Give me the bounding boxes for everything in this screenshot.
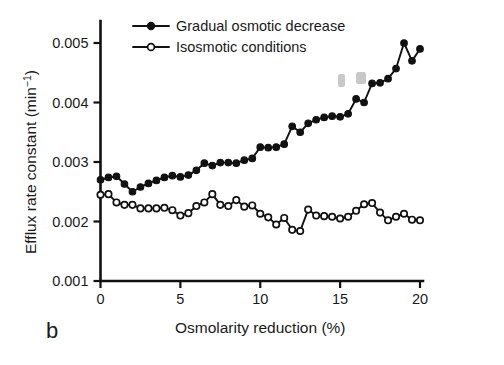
y-tick-label-4: 0.005 bbox=[52, 35, 88, 51]
data-point-1-28 bbox=[321, 213, 327, 219]
data-point-1-33 bbox=[361, 201, 367, 207]
x-tick-label-3: 15 bbox=[332, 291, 348, 307]
data-point-1-14 bbox=[209, 191, 215, 197]
data-point-0-8 bbox=[161, 174, 168, 181]
data-point-1-24 bbox=[289, 227, 295, 233]
data-point-1-12 bbox=[193, 203, 199, 209]
data-point-0-40 bbox=[417, 46, 424, 53]
data-point-1-8 bbox=[161, 205, 167, 211]
data-point-1-38 bbox=[401, 211, 407, 217]
chart-canvas: 0.0010.0020.0030.0040.00505101520 Gradua… bbox=[0, 0, 504, 365]
y-axis-title: Efflux rate constant (min−1) bbox=[21, 70, 39, 254]
data-point-0-2 bbox=[113, 173, 120, 180]
data-point-0-35 bbox=[377, 80, 384, 87]
data-point-0-20 bbox=[257, 144, 264, 151]
y-axis-title-main: Efflux rate constant (min bbox=[22, 87, 39, 254]
x-axis-title: Osmolarity reduction (%) bbox=[175, 319, 346, 336]
data-point-0-26 bbox=[305, 120, 312, 127]
y-axis-title-exponent: −1 bbox=[21, 75, 33, 87]
data-point-1-15 bbox=[217, 202, 223, 208]
data-point-0-37 bbox=[393, 65, 400, 72]
panel-label: b bbox=[46, 318, 58, 343]
figure-panel-b: 0.0010.0020.0030.0040.00505101520 Gradua… bbox=[0, 0, 504, 365]
legend-label-1: Isosmotic conditions bbox=[176, 39, 307, 55]
data-point-0-0 bbox=[97, 177, 104, 184]
data-point-1-27 bbox=[313, 212, 319, 218]
data-point-1-17 bbox=[233, 197, 239, 203]
data-point-0-7 bbox=[153, 177, 160, 184]
data-point-1-10 bbox=[177, 212, 183, 218]
data-point-1-34 bbox=[369, 200, 375, 206]
data-point-0-23 bbox=[281, 141, 288, 148]
data-point-1-23 bbox=[281, 215, 287, 221]
data-point-1-32 bbox=[353, 208, 359, 214]
series-line-0 bbox=[101, 43, 421, 192]
data-point-1-16 bbox=[225, 203, 231, 209]
y-axis-title-close: ) bbox=[22, 70, 39, 75]
data-point-0-15 bbox=[217, 159, 224, 166]
data-point-1-25 bbox=[297, 228, 303, 234]
data-point-1-21 bbox=[265, 214, 271, 220]
data-point-0-39 bbox=[409, 58, 416, 65]
data-point-0-3 bbox=[121, 181, 128, 188]
data-point-0-13 bbox=[201, 160, 208, 167]
data-point-0-24 bbox=[289, 123, 296, 130]
y-tick-label-2: 0.003 bbox=[52, 154, 88, 170]
data-point-1-1 bbox=[105, 191, 111, 197]
data-point-0-27 bbox=[313, 116, 320, 123]
data-point-1-2 bbox=[113, 199, 119, 205]
data-point-1-18 bbox=[241, 203, 247, 209]
data-point-1-29 bbox=[329, 214, 335, 220]
data-point-1-7 bbox=[153, 205, 159, 211]
data-point-1-36 bbox=[385, 217, 391, 223]
data-point-1-30 bbox=[337, 215, 343, 221]
y-tick-label-3: 0.004 bbox=[52, 95, 88, 111]
legend-label-0: Gradual osmotic decrease bbox=[176, 18, 345, 34]
x-tick-label-0: 0 bbox=[96, 291, 104, 307]
data-point-0-4 bbox=[129, 188, 136, 195]
data-point-0-18 bbox=[241, 157, 248, 164]
data-point-0-1 bbox=[105, 174, 112, 181]
data-point-1-11 bbox=[185, 210, 191, 216]
data-point-0-33 bbox=[361, 99, 368, 106]
data-point-1-0 bbox=[97, 192, 103, 198]
data-point-1-40 bbox=[417, 217, 423, 223]
data-point-1-4 bbox=[129, 202, 135, 208]
data-point-0-28 bbox=[321, 114, 328, 121]
data-point-0-22 bbox=[273, 144, 280, 151]
data-point-1-19 bbox=[249, 202, 255, 208]
x-tick-label-2: 10 bbox=[252, 291, 268, 307]
data-point-0-21 bbox=[265, 144, 272, 151]
data-point-1-9 bbox=[169, 207, 175, 213]
data-point-0-25 bbox=[297, 129, 304, 136]
data-point-0-10 bbox=[177, 174, 184, 181]
data-point-1-3 bbox=[121, 202, 127, 208]
x-tick-label-1: 5 bbox=[176, 291, 184, 307]
data-point-0-17 bbox=[233, 160, 240, 167]
y-tick-label-0: 0.001 bbox=[52, 273, 88, 289]
data-point-0-38 bbox=[401, 40, 408, 47]
legend-marker-0 bbox=[147, 22, 154, 29]
data-point-1-26 bbox=[305, 206, 311, 212]
data-point-0-9 bbox=[169, 172, 176, 179]
data-point-0-36 bbox=[385, 75, 392, 82]
data-series bbox=[97, 40, 423, 235]
data-point-0-12 bbox=[193, 167, 200, 174]
data-point-0-32 bbox=[353, 96, 360, 103]
data-point-0-6 bbox=[145, 180, 152, 187]
data-point-0-14 bbox=[209, 162, 216, 169]
y-tick-label-1: 0.002 bbox=[52, 214, 88, 230]
data-point-1-31 bbox=[345, 214, 351, 220]
data-point-0-11 bbox=[185, 172, 192, 179]
data-point-0-19 bbox=[249, 155, 256, 162]
data-point-1-13 bbox=[201, 199, 207, 205]
data-point-1-39 bbox=[409, 217, 415, 223]
scan-artifact bbox=[338, 72, 366, 87]
data-point-0-31 bbox=[345, 111, 352, 118]
data-point-1-5 bbox=[137, 205, 143, 211]
data-point-0-34 bbox=[369, 80, 376, 87]
data-point-0-16 bbox=[225, 159, 232, 166]
legend-marker-1 bbox=[148, 44, 155, 51]
chart-legend: Gradual osmotic decreaseIsosmotic condit… bbox=[133, 18, 345, 55]
data-point-1-20 bbox=[257, 211, 263, 217]
